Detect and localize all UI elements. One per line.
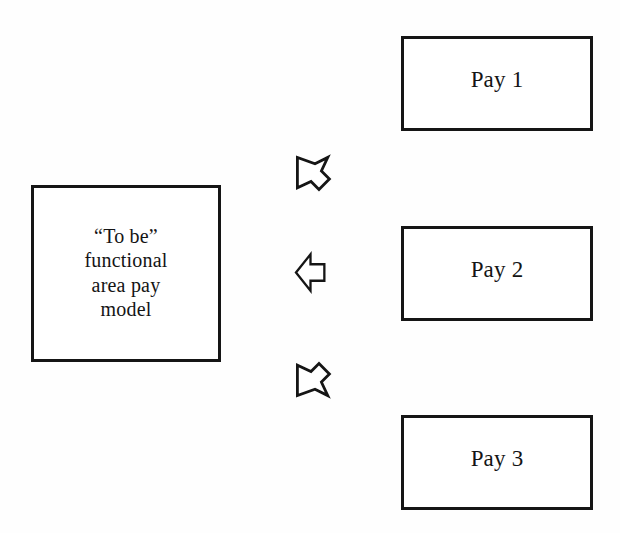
to-be-model-label: “To be” functional area pay model bbox=[84, 224, 167, 324]
to-be-model-box: “To be” functional area pay model bbox=[31, 185, 221, 362]
pay-3-box: Pay 3 bbox=[401, 415, 593, 510]
pay-2-label: Pay 2 bbox=[471, 257, 524, 283]
diagram-canvas: “To be” functional area pay model Pay 1 … bbox=[0, 0, 620, 533]
pay-1-label: Pay 1 bbox=[471, 67, 524, 93]
arrow-up-left-icon bbox=[295, 155, 335, 195]
pay-2-box: Pay 2 bbox=[401, 226, 593, 321]
pay-3-label: Pay 3 bbox=[471, 446, 524, 472]
arrow-down-left-icon bbox=[295, 358, 335, 398]
pay-1-box: Pay 1 bbox=[401, 36, 593, 131]
arrow-left-icon bbox=[294, 250, 327, 295]
